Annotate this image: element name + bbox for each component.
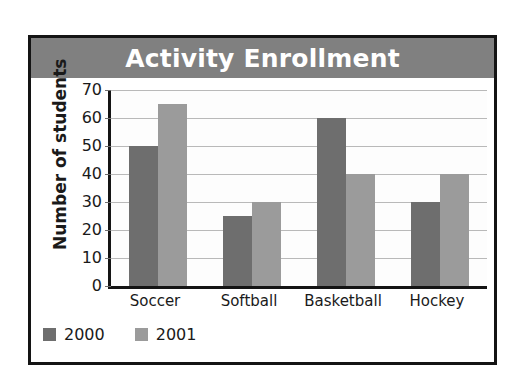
y-axis-tick-mark — [105, 286, 111, 287]
x-axis-tick-label: Hockey — [390, 292, 484, 310]
bar — [317, 118, 346, 286]
chart-card: Activity Enrollment Number of students 0… — [28, 35, 497, 365]
bar — [346, 174, 375, 286]
page-title: Activity Enrollment — [125, 44, 400, 73]
x-axis-tick-labels: SoccerSoftballBasketballHockey — [108, 292, 484, 310]
y-axis-tick-label: 50 — [71, 138, 102, 154]
legend-label: 2000 — [64, 325, 105, 344]
y-axis-tick-label: 20 — [71, 222, 102, 238]
bar — [158, 104, 187, 286]
legend-item: 2000 — [43, 325, 105, 344]
y-axis-tick-labels: 010203040506070 — [71, 90, 102, 286]
bar — [252, 202, 281, 286]
bar-group — [299, 90, 393, 286]
y-axis-tick-label: 30 — [71, 194, 102, 210]
legend-swatch-icon — [43, 328, 56, 341]
y-axis-label: Number of students — [50, 70, 70, 250]
legend-label: 2001 — [156, 325, 197, 344]
bar — [223, 216, 252, 286]
bar — [440, 174, 469, 286]
y-axis-tick-label: 0 — [71, 278, 102, 294]
y-axis-tick-label: 60 — [71, 110, 102, 126]
plot-area — [108, 90, 487, 289]
chart-title-banner: Activity Enrollment — [31, 38, 494, 78]
y-axis-tick-label: 70 — [71, 82, 102, 98]
bar-group — [111, 90, 205, 286]
bar-group — [393, 90, 487, 286]
bar — [129, 146, 158, 286]
y-axis-tick-label: 40 — [71, 166, 102, 182]
bar — [411, 202, 440, 286]
x-axis-tick-label: Soccer — [108, 292, 202, 310]
bars-layer — [111, 90, 487, 286]
x-axis-tick-label: Basketball — [296, 292, 390, 310]
legend-item: 2001 — [135, 325, 197, 344]
chart-legend: 20002001 — [43, 325, 196, 344]
legend-swatch-icon — [135, 328, 148, 341]
x-axis-tick-label: Softball — [202, 292, 296, 310]
y-axis-tick-label: 10 — [71, 250, 102, 266]
bar-group — [205, 90, 299, 286]
